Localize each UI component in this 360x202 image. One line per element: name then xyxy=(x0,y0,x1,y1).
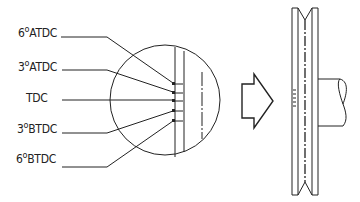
svg-text:TDC: TDC xyxy=(25,91,48,105)
label-6-atdc: 6oATDC xyxy=(18,24,57,40)
label-6-btdc: 6oBTDC xyxy=(16,150,56,166)
svg-text:6oATDC: 6oATDC xyxy=(18,24,57,40)
svg-text:3oBTDC: 3oBTDC xyxy=(17,120,57,136)
svg-text:6oBTDC: 6oBTDC xyxy=(16,150,56,166)
label-3-btdc: 3oBTDC xyxy=(17,120,57,136)
svg-text:3oATDC: 3oATDC xyxy=(18,58,57,74)
magnified-detail-circle xyxy=(110,45,220,157)
label-tdc: TDC xyxy=(25,91,48,105)
shaft xyxy=(318,79,346,126)
label-3-atdc: 3oATDC xyxy=(18,58,57,74)
leader-lines xyxy=(61,37,173,167)
crankshaft-pulley xyxy=(292,8,346,195)
timing-marks-diagram: 6oATDC 3oATDC TDC 3oBTDC 6oBTDC xyxy=(0,0,360,202)
right-arrow-icon xyxy=(242,74,273,128)
